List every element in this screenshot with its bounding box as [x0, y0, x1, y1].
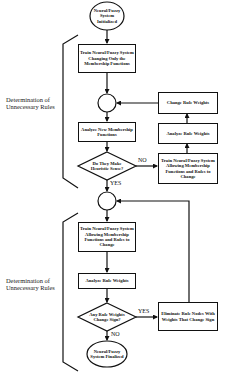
end-node: Neural/Fuzzy System Finalized: [90, 344, 124, 364]
merge-circle-1: [98, 94, 116, 112]
change-weights-box: Change Rule Weights: [158, 92, 218, 114]
train-all-box-2: Train Neural/Fuzzy System Allowing Membe…: [78, 222, 136, 252]
analyze-mf-box: Analyze New Membership Functions: [78, 122, 136, 142]
train-mf-only-box: Train Neural/Fuzzy System Changing Only …: [78, 44, 136, 73]
decision-sign-text: Any Rule Weights Change Sign?: [88, 309, 126, 325]
analyze-weights-box-2: Analyze Rule Weights: [78, 273, 136, 289]
analyze-weights-box-1: Analyze Rule Weights: [158, 123, 218, 144]
start-node: Neural/Fuzzy System Initialized: [92, 4, 122, 28]
bracket-1: [63, 35, 78, 188]
bracket-label-2: Determination of Unnecessary Rules: [6, 277, 58, 291]
eliminate-box: Eliminate Rule Nodes With Weights That C…: [158, 302, 218, 331]
edge-label-no-2: NO: [111, 331, 120, 337]
train-all-box-1: Train Neural/Fuzzy System Allowing Membe…: [158, 153, 218, 184]
merge-circle-2: [98, 192, 116, 210]
edge-label-yes-2: YES: [138, 308, 149, 314]
edge-label-no-1: NO: [138, 157, 147, 163]
bracket-2: [63, 213, 78, 371]
bracket-label-1: Determination of Unnecessary Rules: [6, 96, 58, 110]
edge-label-yes-1: YES: [110, 180, 121, 186]
decision-heuristic-text: Do They Make Heuristic Sense?: [88, 158, 126, 174]
